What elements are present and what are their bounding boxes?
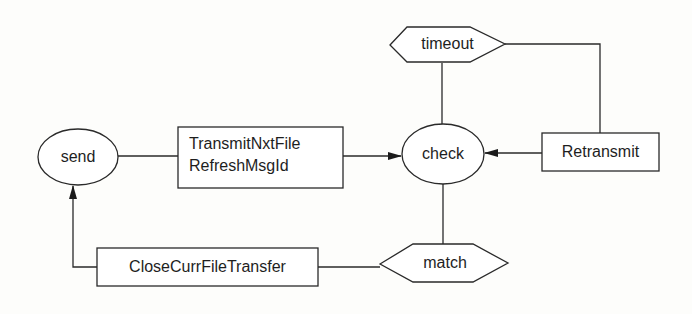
close-node-label: CloseCurrFileTransfer bbox=[97, 257, 318, 277]
transmit-node-label-line2: RefreshMsgId bbox=[189, 156, 289, 176]
edge-timeout-to-retransmit bbox=[505, 44, 600, 133]
match-node-label: match bbox=[395, 253, 495, 273]
edge-close-to-send bbox=[73, 186, 97, 267]
retransmit-node-label: Retransmit bbox=[542, 142, 659, 162]
transmit-node-label-line1: TransmitNxtFile bbox=[189, 134, 300, 154]
timeout-node-label: timeout bbox=[400, 34, 495, 54]
diagram-canvas: send TransmitNxtFile RefreshMsgId check … bbox=[0, 0, 692, 314]
check-node-label: check bbox=[402, 144, 484, 164]
send-node-label: send bbox=[38, 147, 118, 167]
